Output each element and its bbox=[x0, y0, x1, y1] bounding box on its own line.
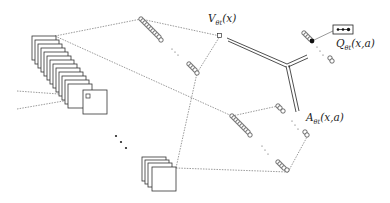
value-label: Vθt(x) bbox=[208, 12, 236, 27]
advantage-label-symbol: A bbox=[306, 111, 314, 123]
q-label-symbol: Q bbox=[336, 37, 345, 49]
q-action-box bbox=[333, 25, 353, 34]
ellipsis-dots bbox=[115, 135, 127, 149]
value-hidden-column-bottom bbox=[187, 62, 199, 75]
aggregation-lines bbox=[227, 38, 308, 112]
value-label-args: (x) bbox=[222, 12, 236, 24]
q-ellipsis bbox=[316, 46, 323, 55]
value-label-symbol: V bbox=[208, 12, 216, 24]
q-selected-unit bbox=[310, 39, 315, 44]
dueling-network-diagram bbox=[0, 0, 390, 203]
value-hidden-column-top bbox=[139, 17, 163, 42]
q-output-column-bottom bbox=[328, 56, 334, 63]
advantage-label: Aθt(x,a) bbox=[306, 111, 344, 126]
advantage-output-ellipsis bbox=[291, 120, 298, 129]
q-label: Qθt(x,a) bbox=[336, 37, 375, 52]
advantage-hidden-column-top bbox=[230, 114, 252, 137]
conv-feature-map-stack bbox=[142, 157, 176, 191]
value-ellipsis bbox=[171, 48, 178, 55]
advantage-output-column-top bbox=[276, 104, 285, 113]
advantage-output-column-bottom bbox=[303, 130, 309, 137]
advantage-hidden-column-bottom bbox=[276, 160, 289, 172]
value-output-unit bbox=[218, 34, 222, 38]
advantage-label-args: (x,a) bbox=[320, 111, 344, 123]
q-label-args: (x,a) bbox=[351, 37, 375, 49]
input-feature-map-stack bbox=[32, 36, 107, 114]
advantage-ellipsis bbox=[261, 145, 268, 154]
